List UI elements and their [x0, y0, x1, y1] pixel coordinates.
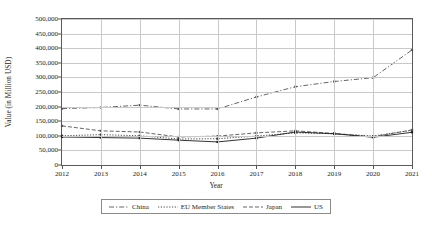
x-axis-tick-label: 2014	[133, 170, 147, 178]
gridline-horizontal	[62, 34, 412, 35]
chart-legend: ChinaEU Member StatesJapanUS	[101, 199, 331, 214]
x-axis-tick-mark	[101, 166, 102, 169]
legend-label-eu-member-states: EU Member States	[181, 203, 234, 211]
data-point-marker	[61, 108, 63, 110]
gridline-horizontal	[62, 63, 412, 64]
legend-swatch-eu-member-states	[158, 204, 178, 210]
y-axis-tick-label: 400,000	[35, 44, 58, 52]
x-axis-tick-label: 2016	[211, 170, 225, 178]
series-line-us	[62, 132, 412, 142]
y-axis-tick-label: 50,000	[39, 146, 58, 154]
y-axis-tick-mark	[58, 92, 61, 93]
x-axis-tick-mark	[218, 166, 219, 169]
y-axis-tick-labels: 050,000100,000150,000200,000250,000300,0…	[14, 0, 58, 229]
gridline-horizontal	[62, 121, 412, 122]
y-axis-tick-mark	[58, 77, 61, 78]
legend-swatch-china	[109, 204, 129, 210]
y-axis-tick-mark	[58, 165, 61, 166]
x-axis-tick-mark	[256, 166, 257, 169]
y-axis-tick-label: 500,000	[35, 15, 58, 23]
legend-swatch-japan	[243, 204, 263, 210]
gridline-horizontal	[62, 107, 412, 108]
y-axis-tick-label: 250,000	[35, 88, 58, 96]
gridline-vertical	[218, 19, 219, 165]
x-axis-tick-label: 2013	[94, 170, 108, 178]
data-point-marker	[411, 129, 413, 131]
legend-item-eu-member-states[interactable]: EU Member States	[158, 203, 234, 211]
gridline-horizontal	[62, 48, 412, 49]
x-axis-tick-label: 2012	[55, 170, 69, 178]
x-axis-tick-mark	[179, 166, 180, 169]
data-point-marker	[411, 131, 413, 133]
y-axis-tick-label: 300,000	[35, 73, 58, 81]
x-axis-title: Year	[0, 182, 432, 190]
y-axis-tick-mark	[58, 19, 61, 20]
y-axis-tick-mark	[58, 33, 61, 34]
gridline-horizontal	[62, 92, 412, 93]
gridline-vertical	[101, 19, 102, 165]
legend-label-china: China	[132, 203, 149, 211]
x-axis-tick-label: 2019	[327, 170, 341, 178]
gridline-horizontal	[62, 150, 412, 151]
gridline-vertical	[140, 19, 141, 165]
legend-item-japan[interactable]: Japan	[243, 203, 282, 211]
x-axis-tick-mark	[140, 166, 141, 169]
line-chart: Value (in Million USD) 050,000100,000150…	[0, 0, 432, 229]
y-axis-tick-mark	[58, 48, 61, 49]
y-axis-tick-label: 200,000	[35, 103, 58, 111]
y-axis-tick-mark	[58, 150, 61, 151]
x-axis-tick-mark	[334, 166, 335, 169]
gridline-vertical	[179, 19, 180, 165]
x-axis-tick-label: 2021	[405, 170, 419, 178]
x-axis-tick-label: 2017	[249, 170, 263, 178]
y-axis-tick-label: 100,000	[35, 132, 58, 140]
y-axis-tick-label: 450,000	[35, 30, 58, 38]
y-axis-tick-mark	[58, 106, 61, 107]
gridline-horizontal	[62, 136, 412, 137]
gridline-horizontal	[62, 19, 412, 20]
y-axis-tick-label: 150,000	[35, 117, 58, 125]
y-axis-tick-mark	[58, 121, 61, 122]
y-axis-tick-mark	[58, 62, 61, 63]
legend-label-japan: Japan	[266, 203, 282, 211]
series-line-china	[62, 50, 412, 109]
x-axis-tick-label: 2018	[288, 170, 302, 178]
legend-item-china[interactable]: China	[109, 203, 149, 211]
x-axis-tick-mark	[295, 166, 296, 169]
y-axis-tick-label: 350,000	[35, 59, 58, 67]
y-axis-tick-mark	[58, 135, 61, 136]
gridline-vertical	[373, 19, 374, 165]
x-axis-tick-mark	[412, 166, 413, 169]
data-point-marker	[61, 125, 63, 127]
legend-item-us[interactable]: US	[291, 203, 323, 211]
gridline-horizontal	[62, 77, 412, 78]
legend-label-us: US	[314, 203, 323, 211]
gridline-vertical	[256, 19, 257, 165]
gridline-vertical	[295, 19, 296, 165]
plot-area	[61, 18, 413, 166]
x-axis-tick-mark	[373, 166, 374, 169]
x-axis-tick-label: 2015	[172, 170, 186, 178]
x-axis-tick-mark	[62, 166, 63, 169]
x-axis-tick-label: 2020	[366, 170, 380, 178]
gridline-vertical	[334, 19, 335, 165]
legend-swatch-us	[291, 204, 311, 210]
